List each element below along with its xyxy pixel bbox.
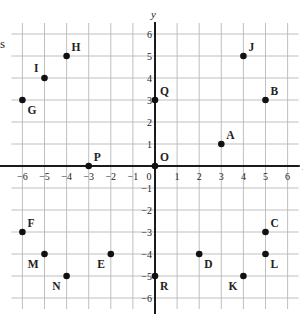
x-tick-label: 0 [147,171,152,182]
x-tick-label: 3 [219,171,224,182]
coordinate-plane: xy −6−5−4−3−2−10123456654321−1−2−3−4−5−6… [0,0,303,314]
point-label: K [228,280,237,292]
point-h [63,53,70,60]
point-label: Q [160,85,169,97]
point-label: C [271,217,279,229]
x-tick-label: −3 [83,171,94,182]
x-tick-label: 4 [241,171,246,182]
point-label: N [52,280,61,292]
point-g [19,97,26,104]
point-label: E [97,258,105,270]
point-n [63,273,70,280]
y-tick-label: −6 [141,293,152,304]
point-label: J [248,41,254,53]
y-tick-label: −3 [141,227,152,238]
point-b [262,97,269,104]
point-p [85,163,92,170]
x-tick-label: −4 [61,171,72,182]
y-tick-label: 1 [147,139,152,150]
x-tick-label: −1 [128,171,139,182]
y-tick-label: −1 [141,183,152,194]
point-label: G [27,104,36,116]
x-tick-label: 1 [175,171,180,182]
point-label: B [271,85,279,97]
y-tick-label: 4 [147,73,152,84]
point-label: I [34,62,39,74]
x-tick-label: −2 [105,171,116,182]
point-a [218,141,225,148]
y-tick-label: 5 [147,51,152,62]
x-tick-label: −5 [39,171,50,182]
x-tick-label: −6 [17,171,28,182]
y-tick-label: 6 [147,29,152,40]
point-label: F [27,217,34,229]
point-j [240,53,247,60]
point-label: P [94,151,101,163]
point-label: D [204,258,212,270]
y-tick-label: −4 [141,249,152,260]
y-tick-label: 3 [147,95,152,106]
point-r [152,273,159,280]
point-l [262,251,269,258]
point-k [240,273,247,280]
x-axis-label: x [302,160,303,172]
x-tick-label: 2 [197,171,202,182]
point-c [262,229,269,236]
y-tick-label: 2 [147,117,152,128]
point-o [152,163,159,170]
point-label: L [271,258,279,270]
x-tick-label: 6 [285,171,290,182]
point-label: R [160,280,169,292]
point-e [108,251,115,258]
point-label: M [28,258,39,270]
point-d [196,251,203,258]
x-tick-label: 5 [263,171,268,182]
point-q [152,97,159,104]
y-tick-label: −2 [141,205,152,216]
y-tick-label: −5 [141,271,152,282]
point-label: H [72,41,81,53]
point-label: O [160,151,169,163]
point-m [41,251,48,258]
point-f [19,229,26,236]
point-label: A [226,129,235,141]
y-axis-label: y [150,8,156,20]
point-i [41,75,48,82]
